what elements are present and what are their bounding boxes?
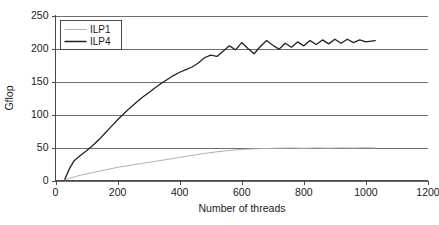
line-chart: 050100150200250 020040060080010001200 Gf… <box>0 0 439 225</box>
x-axis-title: Number of threads <box>199 202 286 214</box>
series-line-ilp1 <box>65 148 375 180</box>
legend-label-ilp1: ILP1 <box>90 24 111 35</box>
x-tick-label-200: 200 <box>109 186 127 198</box>
y-axis-title: Gflop <box>3 85 15 110</box>
x-tick-label-600: 600 <box>233 186 251 198</box>
x-tick-label-800: 800 <box>295 186 313 198</box>
y-tick-label-200: 200 <box>31 42 49 54</box>
y-tick-label-100: 100 <box>31 108 49 120</box>
y-tick-label-0: 0 <box>43 174 49 186</box>
x-tick-label-1000: 1000 <box>354 186 378 198</box>
x-tick-label-0: 0 <box>53 186 59 198</box>
series-line-ilp4 <box>65 39 375 179</box>
chart-container: 050100150200250 020040060080010001200 Gf… <box>0 0 439 225</box>
y-tick-label-50: 50 <box>37 141 49 153</box>
series-group <box>65 39 375 180</box>
y-tick-label-250: 250 <box>31 9 49 21</box>
x-tick-label-1200: 1200 <box>416 186 439 198</box>
y-tick-marks-group <box>52 17 56 182</box>
x-tick-label-400: 400 <box>171 186 189 198</box>
legend-label-ilp4: ILP4 <box>90 36 111 47</box>
y-tick-label-150: 150 <box>31 75 49 87</box>
y-tick-labels-group: 050100150200250 <box>31 9 49 186</box>
x-tick-labels-group: 020040060080010001200 <box>53 186 439 198</box>
legend: ILP1 ILP4 <box>61 21 122 50</box>
